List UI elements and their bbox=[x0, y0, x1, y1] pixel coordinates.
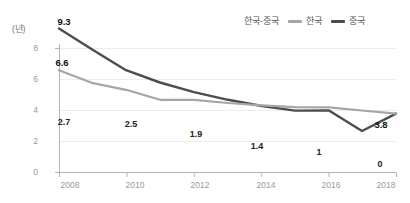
y-tick-label-0: 0 bbox=[20, 167, 38, 177]
y-tick-label-6: 6 bbox=[20, 74, 38, 84]
plot-area bbox=[0, 0, 410, 203]
y-tick-label-2: 2 bbox=[20, 136, 38, 146]
x-tick-label-2008: 2008 bbox=[50, 180, 90, 190]
x-tick-label-2018: 2018 bbox=[366, 180, 406, 190]
diff-label-2018: 0 bbox=[377, 159, 382, 169]
series-line-korea bbox=[59, 70, 396, 113]
y-tick-label-8: 8 bbox=[20, 43, 38, 53]
data-label-converged-end: 3.8 bbox=[374, 119, 387, 130]
data-label-china-start: 9.3 bbox=[57, 16, 70, 27]
diff-label-2016: 1 bbox=[316, 147, 321, 157]
diff-label-2010: 2.5 bbox=[125, 119, 138, 129]
x-tick-label-2010: 2010 bbox=[115, 180, 155, 190]
y-tick-label-4: 4 bbox=[20, 105, 38, 115]
chart-container: (년) 한국-중국 한국 중국 bbox=[0, 0, 410, 203]
x-axis-ticks bbox=[60, 173, 397, 178]
x-tick-label-2012: 2012 bbox=[180, 180, 220, 190]
diff-label-2014: 1.4 bbox=[251, 141, 264, 151]
diff-label-2008: 2.7 bbox=[58, 117, 71, 127]
x-tick-label-2014: 2014 bbox=[246, 180, 286, 190]
diff-label-2012: 1.9 bbox=[190, 129, 203, 139]
x-tick-label-2016: 2016 bbox=[311, 180, 351, 190]
data-label-korea-start: 6.6 bbox=[55, 57, 68, 68]
grid-lines bbox=[59, 49, 396, 142]
